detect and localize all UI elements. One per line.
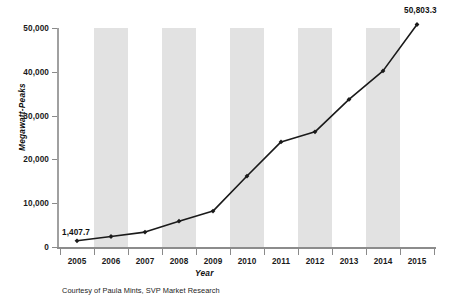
chart-figure: 50,000 40,000 30,000 20,000 10,000 0 Meg… — [0, 0, 452, 306]
data-point-2008 — [177, 219, 182, 224]
chart-credit: Courtesy of Paula Mints, SVP Market Rese… — [62, 286, 220, 295]
data-label-2005: 1,407.7 — [62, 228, 90, 237]
data-point-2007 — [143, 230, 148, 235]
data-point-2005 — [75, 238, 80, 243]
data-label-2015: 50,803.3 — [404, 6, 437, 15]
data-point-2006 — [109, 234, 114, 239]
data-series-line — [0, 0, 452, 306]
